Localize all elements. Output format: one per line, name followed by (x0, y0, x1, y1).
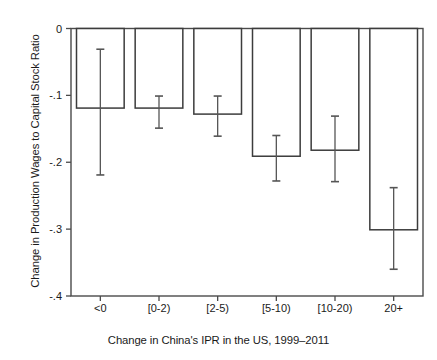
plot-area (0, 0, 437, 360)
x-axis-ticks (100, 296, 393, 301)
y-axis-ticks (66, 29, 71, 297)
chart-figure: Change in Production Wages to Capital St… (0, 0, 437, 360)
bar-series (77, 29, 418, 230)
